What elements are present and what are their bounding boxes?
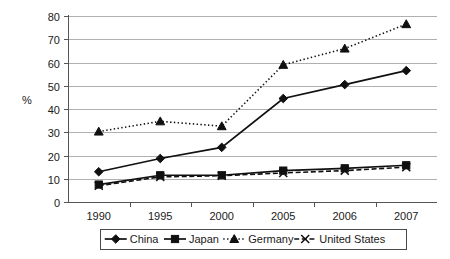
legend-label: Japan — [189, 233, 219, 245]
x-axis-tick-label: 2007 — [394, 210, 418, 222]
chart-legend: ChinaJapanGermanyUnited States — [101, 230, 407, 250]
y-axis-tick-label: 10 — [48, 174, 60, 186]
y-axis-tick-label: 30 — [48, 127, 60, 139]
data-point-china — [340, 80, 349, 89]
data-point-china — [402, 66, 411, 75]
legend-label: Germany — [248, 233, 294, 245]
data-point-china — [94, 167, 103, 176]
x-axis-tick-label: 2000 — [210, 210, 234, 222]
series-line — [99, 24, 407, 131]
y-axis-tick-label: 60 — [48, 58, 60, 70]
y-axis-title: % — [22, 94, 32, 106]
y-axis-tick-label: 20 — [48, 151, 60, 163]
y-axis: 01020304050607080 — [48, 11, 69, 209]
legend-label: United States — [319, 233, 386, 245]
y-axis-tick-label: 40 — [48, 104, 60, 116]
plot-series — [94, 20, 410, 190]
x-axis-tick-label: 1995 — [148, 210, 172, 222]
data-point-china — [156, 154, 165, 163]
x-axis-tick-label: 1990 — [87, 210, 111, 222]
data-point-germany — [402, 20, 411, 28]
y-axis-tick-label: 0 — [54, 197, 60, 209]
legend-label: China — [130, 233, 160, 245]
x-axis: 199019952000200520062007 — [68, 203, 437, 222]
data-point-germany — [217, 122, 226, 130]
chart-canvas: 01020304050607080 1990199520002005200620… — [0, 0, 450, 259]
series-line — [99, 167, 407, 186]
y-axis-tick-label: 80 — [48, 11, 60, 23]
data-point-germany — [94, 127, 103, 135]
series-china — [94, 66, 410, 176]
y-axis-tick-label: 70 — [48, 34, 60, 46]
y-axis-tick-label: 50 — [48, 81, 60, 93]
x-axis-tick-label: 2006 — [333, 210, 357, 222]
x-axis-tick-label: 2005 — [271, 210, 295, 222]
data-point-legend-japan — [171, 235, 178, 242]
line-chart: 01020304050607080 1990199520002005200620… — [0, 0, 450, 259]
series-germany — [94, 20, 410, 135]
